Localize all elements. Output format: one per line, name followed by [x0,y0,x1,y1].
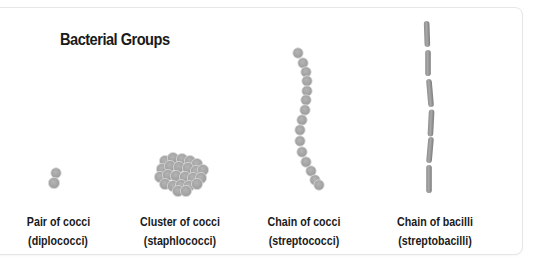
label-diplococci: Pair of cocci (diplococci) [27,212,89,250]
bacillus-cell [426,79,434,107]
streptococci-illustration [293,48,324,190]
coccus-cell [302,76,312,86]
bacillus-cell [427,109,434,136]
group-term: (staphlococci) [139,231,221,250]
coccus-cell [297,115,307,125]
label-staphylococci: Cluster of cocci (staphlococci) [139,212,221,250]
group-name: Pair of cocci [27,212,89,231]
bacillus-cell [425,50,431,76]
group-term: (diplococci) [27,231,89,250]
coccus-cell [191,178,202,189]
bacillus-cell [426,165,432,193]
coccus-cell [301,95,311,105]
group-name: Chain of cocci [263,212,345,231]
coccus-cell [295,125,305,135]
staphylococci-illustration [154,152,208,196]
coccus-cell [295,136,305,146]
streptobacilli-illustration [424,21,435,193]
coccus-cell [297,147,307,157]
bacillus-cell [426,137,434,163]
coccus-cell [300,105,310,115]
coccus-cell [180,185,191,196]
diplococci-illustration [48,168,61,189]
bacillus-cell [424,21,431,47]
label-streptococci: Chain of cocci (streptococci) [263,212,345,250]
group-term: (streptobacilli) [392,231,477,250]
coccus-cell [48,177,59,188]
group-name: Chain of bacilli [392,212,477,231]
group-term: (streptococci) [263,231,345,250]
coccus-cell [314,180,324,190]
coccus-cell [51,168,61,178]
group-name: Cluster of cocci [139,212,221,231]
coccus-cell [293,48,303,58]
label-streptobacilli: Chain of bacilli (streptobacilli) [392,212,477,250]
